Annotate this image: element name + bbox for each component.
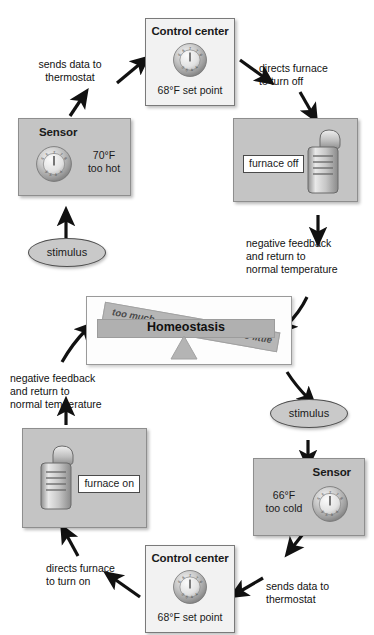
control-center-bottom-title: Control center	[146, 552, 234, 564]
furnace-on-label: furnace on	[78, 475, 140, 493]
thermostat-dial-icon: 6 6 7 7 8 5 5 4 4	[172, 569, 208, 605]
caption-nf-left-line2: and return to	[10, 385, 138, 398]
stimulus-right-label: stimulus	[271, 400, 347, 427]
caption-sends-data-top: sends data to thermostat	[18, 58, 122, 84]
caption-sends-data-bottom-line2: thermostat	[266, 593, 370, 606]
caption-sends-data-bottom-line1: sends data to	[266, 580, 370, 593]
control-center-top-title: Control center	[146, 25, 234, 37]
caption-negative-feedback-right: negative feedback and return to normal t…	[246, 237, 371, 277]
thermostat-dial-icon: 6 6 7 7 8 5 5 4 4	[35, 145, 73, 183]
caption-nf-left-line3: normal temperature	[10, 398, 138, 411]
furnace-icon	[33, 437, 83, 517]
svg-text:7: 7	[189, 574, 191, 578]
caption-nf-right-line1: negative feedback	[246, 237, 371, 250]
caption-sends-data-top-line2: thermostat	[18, 71, 122, 84]
sensor-top-state: too hot	[81, 162, 127, 175]
homeostasis-box: too much too little Homeostasis	[86, 296, 292, 365]
caption-directs-off-line1: directs furnace	[259, 62, 369, 75]
furnace-on-box: furnace on	[22, 428, 147, 528]
sensor-bottom-title: Sensor	[313, 466, 351, 478]
sensor-top-box: Sensor 6 6 7 7 8 5 5 4 4 70°	[18, 118, 131, 196]
furnace-icon	[300, 125, 350, 197]
stimulus-right: stimulus	[270, 399, 348, 428]
caption-directs-off: directs furnace to turn off	[259, 62, 369, 88]
caption-directs-on: directs furnace to turn on	[46, 562, 156, 588]
caption-nf-left-line1: negative feedback	[10, 372, 138, 385]
caption-directs-off-line2: to turn off	[259, 75, 369, 88]
fulcrum-icon	[170, 336, 198, 364]
sensor-bottom-value: 66°F	[260, 489, 308, 502]
thermostat-dial-icon: 6 6 7 7 8 5 5 4 4	[311, 485, 349, 523]
svg-text:7: 7	[53, 150, 55, 155]
caption-nf-right-line2: and return to	[246, 250, 371, 263]
svg-text:7: 7	[329, 490, 331, 495]
caption-negative-feedback-left: negative feedback and return to normal t…	[10, 372, 138, 412]
control-center-top-box: Control center	[145, 18, 235, 106]
svg-text:7: 7	[189, 47, 191, 51]
thermostat-dial-icon: 6 6 7 7 8 5 5 4 4	[172, 42, 208, 78]
sensor-bottom-box: Sensor 6 6 7 7 8 5 5 4 4 66°	[253, 458, 365, 536]
stimulus-left: stimulus	[28, 238, 106, 267]
control-center-top-setpoint: 68°F set point	[146, 84, 234, 96]
stimulus-left-label: stimulus	[29, 239, 105, 266]
sensor-top-title: Sensor	[39, 126, 77, 138]
furnace-off-box: furnace off	[233, 118, 358, 202]
caption-directs-on-line1: directs furnace	[46, 562, 156, 575]
caption-sends-data-top-line1: sends data to	[18, 58, 122, 71]
sensor-bottom-state: too cold	[260, 502, 308, 515]
control-center-bottom-setpoint: 68°F set point	[146, 611, 234, 623]
control-center-bottom-box: Control center 6 6 7 7 8 5 5 4 4 68	[145, 545, 235, 633]
sensor-top-readout: 70°F too hot	[81, 149, 127, 175]
sensor-bottom-readout: 66°F too cold	[260, 489, 308, 515]
caption-directs-on-line2: to turn on	[46, 575, 156, 588]
sensor-top-value: 70°F	[81, 149, 127, 162]
caption-nf-right-line3: normal temperature	[246, 263, 371, 276]
homeostasis-label: Homeostasis	[98, 320, 274, 335]
caption-sends-data-bottom: sends data to thermostat	[266, 580, 370, 606]
furnace-off-label: furnace off	[243, 155, 304, 173]
diagram-canvas: Control center	[0, 0, 374, 635]
